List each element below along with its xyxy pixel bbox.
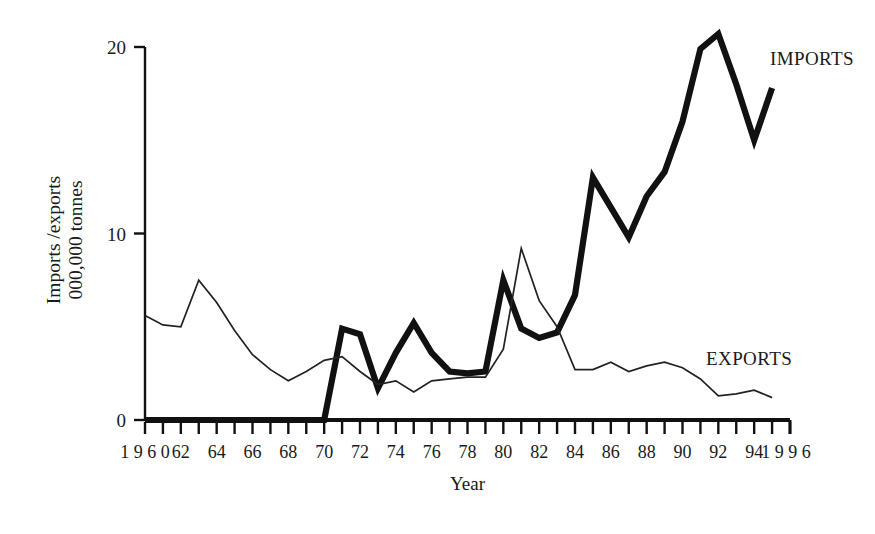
x-tick-label-1962: 62 [172, 442, 190, 462]
x-tick-label-1980: 80 [494, 442, 512, 462]
x-tick-label-1970: 70 [315, 442, 333, 462]
x-tick-label-1984: 84 [566, 442, 584, 462]
x-axis-title: Year [450, 473, 486, 494]
x-tick-label-1978: 78 [459, 442, 477, 462]
x-axis-start-label: 1 9 6 0 [120, 442, 170, 462]
series-line-imports [145, 34, 772, 420]
x-axis-end-label: 1 9 9 6 [761, 442, 811, 462]
x-tick-label-1966: 66 [244, 442, 262, 462]
line-chart: 0102062646668707274767880828486889092941… [0, 0, 875, 534]
x-tick-label-1986: 86 [602, 442, 620, 462]
chart-container: 0102062646668707274767880828486889092941… [0, 0, 875, 534]
x-tick-label-1992: 92 [709, 442, 727, 462]
x-tick-label-1976: 76 [423, 442, 441, 462]
series-label-exports: EXPORTS [706, 348, 792, 369]
x-tick-label-1990: 90 [674, 442, 692, 462]
y-tick-label-20: 20 [107, 37, 126, 58]
y-tick-label-10: 10 [107, 224, 126, 245]
x-tick-label-1974: 74 [387, 442, 405, 462]
x-tick-label-1972: 72 [351, 442, 369, 462]
y-tick-label-0: 0 [117, 410, 127, 431]
x-tick-label-1982: 82 [530, 442, 548, 462]
x-tick-label-1968: 68 [279, 442, 297, 462]
y-axis-title-line1: Imports /exports [43, 176, 64, 304]
series-label-imports: IMPORTS [770, 48, 854, 69]
x-tick-label-1988: 88 [638, 442, 656, 462]
x-tick-label-1964: 64 [208, 442, 226, 462]
y-axis-title-line2: 000,000 tonnes [65, 180, 86, 299]
